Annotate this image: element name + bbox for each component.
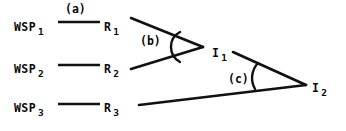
diagram-canvas: WSP1 WSP2 WSP3 R1 R2 R3 I1 I2 (a) (b) (c… [0,0,346,131]
node-r2-base: R [104,62,111,76]
node-i2-sub: 2 [321,87,327,98]
label-a: (a) [65,4,86,16]
node-i1-base: I [212,46,219,60]
node-wsp3: WSP3 [14,97,42,116]
node-r3-base: R [104,101,111,115]
node-i1: I1 [212,42,225,61]
angle-arc-c [252,63,258,89]
node-wsp2: WSP2 [14,58,42,77]
node-r3-sub: 3 [113,107,119,118]
node-wsp1-sub: 1 [38,26,44,37]
label-c: (c) [228,74,249,86]
diagram-vector-layer [0,0,346,131]
node-wsp2-sub: 2 [38,68,44,79]
node-r1-sub: 1 [113,26,119,37]
node-wsp3-base: WSP [14,101,36,115]
node-r1: R1 [104,16,117,35]
segment-r2-i1 [131,47,203,69]
node-wsp1-base: WSP [14,20,36,34]
node-wsp1: WSP1 [14,16,42,35]
segment-r3-i2 [139,85,306,105]
node-r2: R2 [104,58,117,77]
node-wsp3-sub: 3 [38,107,44,118]
node-i2: I2 [312,77,325,96]
node-r2-sub: 2 [113,68,119,79]
node-r1-base: R [104,20,111,34]
label-b: (b) [140,36,161,48]
node-i2-base: I [312,81,319,95]
node-r3: R3 [104,97,117,116]
node-i1-sub: 1 [221,52,227,63]
node-wsp2-base: WSP [14,62,36,76]
